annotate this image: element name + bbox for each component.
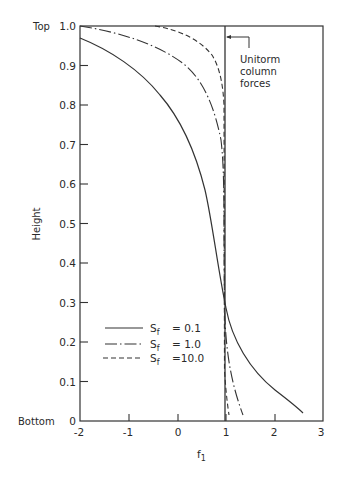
svg-text:Unitorm: Unitorm	[240, 54, 280, 65]
arrow-head-icon	[226, 35, 231, 39]
series-sf-1-0	[80, 26, 243, 415]
svg-text:0.4: 0.4	[59, 257, 76, 269]
x-axis-label: f1	[197, 448, 206, 463]
legend-label-3: Sf=10.0	[150, 352, 204, 367]
legend-label-2: Sf= 1.0	[150, 338, 201, 353]
y-axis-label: Height	[31, 207, 42, 240]
svg-text:-2: -2	[74, 426, 84, 438]
top-label: Top	[32, 21, 50, 32]
x-tick-labels: -2 -1 0 1 2 3	[74, 426, 325, 438]
svg-text:0.1: 0.1	[59, 376, 76, 388]
svg-text:0.7: 0.7	[59, 139, 76, 151]
svg-text:column: column	[240, 66, 277, 77]
legend: Sf= 0.1 Sf= 1.0 Sf=10.0	[103, 322, 204, 367]
svg-text:0.2: 0.2	[59, 336, 76, 348]
annotation-text: Unitorm column forces	[240, 54, 280, 89]
chart-canvas: 0 0.1 0.2 0.3 0.4 0.5 0.6 0.7 0.8 0.9 1.…	[0, 0, 341, 481]
svg-text:1: 1	[223, 426, 230, 438]
bottom-label: Bottom	[18, 416, 55, 427]
svg-text:0.8: 0.8	[59, 99, 76, 111]
svg-text:-1: -1	[123, 426, 133, 438]
y-tick-labels: 0 0.1 0.2 0.3 0.4 0.5 0.6 0.7 0.8 0.9 1.…	[59, 20, 76, 427]
svg-text:3: 3	[318, 426, 325, 438]
svg-text:0.3: 0.3	[59, 297, 76, 309]
svg-text:0.9: 0.9	[59, 60, 76, 72]
svg-text:0.6: 0.6	[59, 178, 76, 190]
y-ticks	[80, 66, 88, 382]
svg-text:2: 2	[271, 426, 278, 438]
svg-text:0: 0	[175, 426, 182, 438]
svg-text:1.0: 1.0	[59, 20, 76, 32]
legend-label-1: Sf= 0.1	[150, 322, 201, 337]
svg-text:forces: forces	[240, 78, 270, 89]
svg-text:0.5: 0.5	[59, 218, 76, 230]
x-ticks	[129, 414, 275, 421]
